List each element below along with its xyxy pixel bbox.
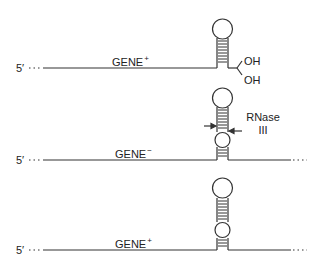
gene-label-middle: GENE− xyxy=(115,148,152,160)
gene-name: GENE xyxy=(115,238,146,250)
panel-middle-loop xyxy=(213,88,233,108)
five-prime-label-bottom: 5′ xyxy=(16,244,24,256)
rnase-iii-label: RNase III xyxy=(246,111,280,137)
rnase-label-line1: RNase xyxy=(246,111,280,124)
five-prime-label-middle: 5′ xyxy=(16,154,24,166)
panel-top-stem-pairs xyxy=(218,41,227,62)
gene-sup: − xyxy=(147,146,152,155)
oh-label-1: OH xyxy=(244,55,261,67)
gene-name: GENE xyxy=(115,148,146,160)
oh-label-2: OH xyxy=(244,74,261,86)
panel-bottom-bulge xyxy=(215,223,230,238)
gene-name: GENE xyxy=(112,56,143,68)
gene-sup: + xyxy=(144,54,149,63)
five-prime-label-top: 5′ xyxy=(16,62,24,74)
rnase-label-line2: III xyxy=(246,124,280,137)
panel-top-loop xyxy=(213,19,233,39)
panel-middle-bulge xyxy=(215,133,230,148)
gene-sup: + xyxy=(147,236,152,245)
gene-label-top: GENE+ xyxy=(112,56,149,68)
panel-bottom-loop xyxy=(213,178,233,198)
panel-bottom-strand xyxy=(29,198,307,250)
gene-label-bottom: GENE+ xyxy=(115,238,152,250)
